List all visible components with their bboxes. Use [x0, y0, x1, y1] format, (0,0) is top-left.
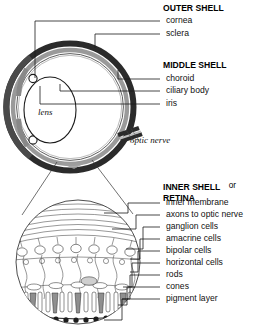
- leader-sclera: [95, 34, 160, 48]
- label-pigment-layer: pigment layer: [166, 293, 218, 303]
- label-column: OUTER SHELL cornea sclera MIDDLE SHELL c…: [163, 3, 243, 303]
- eyeball-group: lens optic nerve: [6, 44, 170, 171]
- group-heading-inner-shell: INNER SHELL or: [163, 174, 236, 192]
- leader-ciliary-body: [60, 84, 160, 91]
- group-heading-middle-shell: MIDDLE SHELL: [163, 60, 227, 70]
- optic-nerve-label: optic nerve: [130, 135, 170, 145]
- label-rods: rods: [166, 269, 183, 279]
- label-cornea: cornea: [166, 15, 192, 25]
- label-ganglion-cells: ganglion cells: [166, 221, 218, 231]
- label-iris: iris: [166, 98, 177, 108]
- retina-detail-circle: [10, 200, 146, 327]
- label-amacrine-cells: amacrine cells: [166, 233, 221, 243]
- lens-label: lens: [38, 107, 53, 117]
- label-bipolar-cells: bipolar cells: [166, 245, 211, 255]
- label-cones: cones: [166, 281, 189, 291]
- label-horizontal-cells: horizontal cells: [166, 257, 223, 267]
- group-heading-outer-shell: OUTER SHELL: [163, 3, 224, 13]
- group-heading-inner-shell-main: INNER SHELL: [163, 182, 220, 192]
- label-inner-membrane: inner membrane: [166, 197, 229, 207]
- label-choroid: choroid: [166, 73, 194, 83]
- label-axons-to-optic-nerve: axons to optic nerve: [166, 209, 243, 219]
- eye-diagram-canvas: lens optic nerve: [0, 0, 266, 335]
- eye-anatomy-diagram: lens optic nerve: [0, 0, 266, 335]
- iris-upper-marker: [29, 74, 37, 82]
- label-ciliary-body: ciliary body: [166, 85, 210, 95]
- group-heading-inner-shell-conjunction: or: [229, 181, 237, 190]
- label-sclera: sclera: [166, 28, 189, 38]
